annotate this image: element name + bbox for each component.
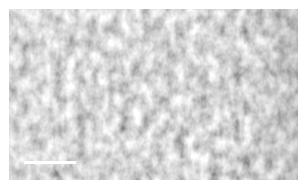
micrograph-image (9, 9, 298, 180)
granular-texture (9, 9, 298, 180)
scale-bar (24, 161, 76, 164)
